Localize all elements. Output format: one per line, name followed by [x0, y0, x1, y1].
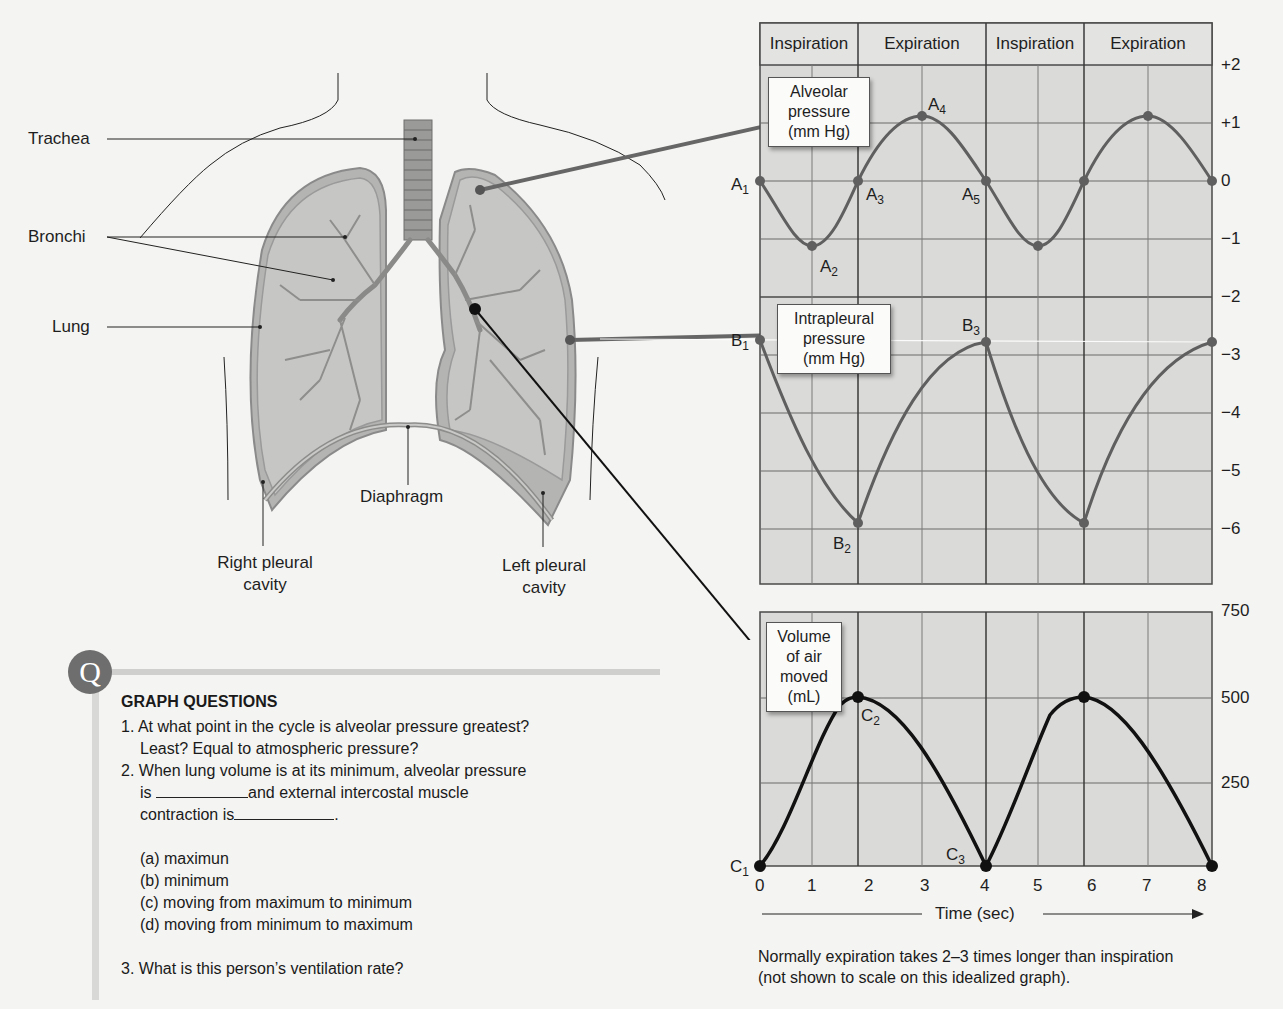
- option-a: (a) maximun: [121, 848, 641, 870]
- callout-intrapleural-line1: Intrapleural: [784, 309, 884, 329]
- x-axis-label: Time (sec): [932, 904, 1018, 924]
- q-badge-icon: Q: [68, 650, 112, 694]
- spacer: [121, 826, 641, 848]
- blank-1[interactable]: [156, 783, 248, 798]
- question-1-line1: 1. At what point in the cycle is alveola…: [121, 716, 641, 738]
- chart-footnote: Normally expiration takes 2–3 times long…: [758, 946, 1173, 988]
- xtick-2: 2: [864, 876, 873, 896]
- question-2-line3: contraction is.: [121, 804, 641, 826]
- ytick-minus5: −5: [1221, 461, 1240, 481]
- q-badge-letter: Q: [79, 655, 101, 688]
- xtick-3: 3: [920, 876, 929, 896]
- xtick-5: 5: [1033, 876, 1042, 896]
- callout-volume-line4: (mL): [773, 687, 835, 707]
- xtick-7: 7: [1142, 876, 1151, 896]
- question-2-period: .: [334, 806, 338, 823]
- callout-volume-line1: Volume: [773, 627, 835, 647]
- callout-intrapleural-line2: pressure: [784, 329, 884, 349]
- question-2-contraction: contraction is: [140, 806, 234, 823]
- ytick-minus6: −6: [1221, 519, 1240, 539]
- question-1-line2: Least? Equal to atmospheric pressure?: [121, 738, 641, 760]
- ytick-750: 750: [1221, 601, 1249, 621]
- ytick-plus1: +1: [1221, 113, 1240, 133]
- question-2-line2-rest: and external intercostal muscle: [248, 784, 469, 801]
- option-c: (c) moving from maximum to minimum: [121, 892, 641, 914]
- callout-intrapleural-pressure: Intrapleural pressure (mm Hg): [777, 304, 891, 374]
- phase-expiration-1: Expiration: [858, 34, 986, 54]
- ytick-minus2: −2: [1221, 287, 1240, 307]
- ytick-0: 0: [1221, 171, 1230, 191]
- callout-alveolar-line3: (mm Hg): [775, 122, 863, 142]
- option-d: (d) moving from minimum to maximum: [121, 914, 641, 936]
- ytick-minus3: −3: [1221, 345, 1240, 365]
- svg-text:C1: C1: [730, 857, 749, 879]
- callout-volume-line3: moved: [773, 667, 835, 687]
- phase-expiration-2: Expiration: [1084, 34, 1212, 54]
- svg-text:A1: A1: [731, 175, 749, 197]
- question-3: 3. What is this person’s ventilation rat…: [121, 958, 641, 980]
- spacer: [121, 936, 641, 958]
- graph-questions-title: GRAPH QUESTIONS: [121, 693, 277, 711]
- callout-intrapleural-line3: (mm Hg): [784, 349, 884, 369]
- blank-2[interactable]: [234, 805, 334, 820]
- phase-inspiration-2: Inspiration: [986, 34, 1084, 54]
- ytick-500: 500: [1221, 688, 1249, 708]
- question-2-line1: 2. When lung volume is at its minimum, a…: [121, 760, 641, 782]
- callout-volume-line2: of air: [773, 647, 835, 667]
- footnote-line2: (not shown to scale on this idealized gr…: [758, 967, 1173, 988]
- xtick-4: 4: [980, 876, 989, 896]
- option-b: (b) minimum: [121, 870, 641, 892]
- footnote-line1: Normally expiration takes 2–3 times long…: [758, 946, 1173, 967]
- ytick-minus1: −1: [1221, 229, 1240, 249]
- phase-inspiration-1: Inspiration: [760, 34, 858, 54]
- svg-text:B1: B1: [731, 331, 749, 353]
- xtick-8: 8: [1197, 876, 1206, 896]
- callout-alveolar-line1: Alveolar: [775, 82, 863, 102]
- xtick-6: 6: [1087, 876, 1096, 896]
- graph-questions-rule: [100, 669, 660, 675]
- question-2-line2: is and external intercostal muscle: [121, 782, 641, 804]
- graph-questions-sidebar: [92, 680, 99, 1000]
- graph-questions-body: 1. At what point in the cycle is alveola…: [121, 716, 641, 980]
- callout-alveolar-line2: pressure: [775, 102, 863, 122]
- callout-alveolar-pressure: Alveolar pressure (mm Hg): [768, 77, 870, 147]
- xtick-1: 1: [807, 876, 816, 896]
- ytick-250: 250: [1221, 773, 1249, 793]
- ytick-minus4: −4: [1221, 403, 1240, 423]
- question-2-is: is: [140, 784, 152, 801]
- ytick-plus2: +2: [1221, 55, 1240, 75]
- callout-volume-air-moved: Volume of air moved (mL): [766, 622, 842, 712]
- xtick-0: 0: [755, 876, 764, 896]
